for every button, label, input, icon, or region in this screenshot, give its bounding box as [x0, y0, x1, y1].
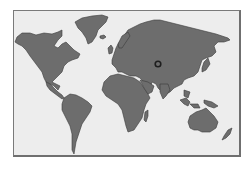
south-america [62, 94, 92, 154]
madagascar [144, 110, 148, 122]
indonesia [180, 90, 200, 108]
british-isles [108, 45, 113, 54]
new-zealand [222, 128, 232, 140]
australia [188, 108, 218, 132]
greenland [75, 15, 108, 44]
japan [202, 58, 210, 72]
north-america [15, 30, 80, 90]
india [160, 84, 170, 99]
world-map [0, 0, 252, 169]
new-guinea [204, 100, 218, 108]
iceland [100, 35, 106, 39]
marker-center-icon [157, 63, 159, 65]
